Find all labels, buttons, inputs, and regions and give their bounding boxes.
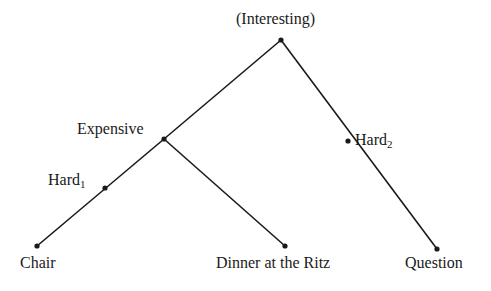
- node-dot-interesting: [278, 37, 283, 42]
- hard2-subscript: 2: [387, 138, 393, 150]
- node-label-hard2: Hard2: [355, 131, 392, 149]
- edge-expensive-chair: [37, 139, 164, 246]
- node-label-expensive: Expensive: [77, 120, 144, 138]
- edge-expensive-dinner: [164, 139, 285, 246]
- tree-edges: [0, 0, 491, 291]
- hard2-text: Hard: [355, 131, 387, 148]
- hard1-text: Hard: [48, 171, 80, 188]
- node-dot-expensive: [161, 136, 166, 141]
- node-label-chair: Chair: [20, 254, 56, 272]
- node-dot-question: [434, 246, 439, 251]
- node-dot-hard1: [102, 185, 107, 190]
- node-label-question: Question: [405, 254, 463, 272]
- node-dot-dinner: [282, 243, 287, 248]
- hard1-subscript: 1: [80, 178, 86, 190]
- edge-interesting-expensive: [164, 40, 281, 139]
- node-dot-chair: [34, 243, 39, 248]
- node-label-dinner: Dinner at the Ritz: [216, 254, 330, 272]
- node-label-interesting: (Interesting): [236, 10, 315, 28]
- node-dot-hard2: [345, 138, 350, 143]
- node-label-hard1: Hard1: [48, 171, 85, 189]
